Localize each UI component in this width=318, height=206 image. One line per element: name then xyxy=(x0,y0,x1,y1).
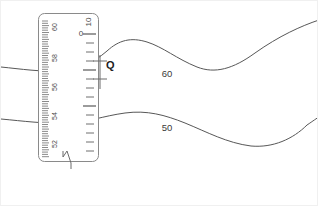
left-scale-label-3: 54 xyxy=(51,112,58,120)
left-scale-label-2: 56 xyxy=(51,83,58,91)
gauge-layer: 60 58 56 54 52 10 0 xyxy=(1,1,318,206)
left-scale-label-1: 58 xyxy=(51,54,58,62)
q-label: Q xyxy=(106,59,115,71)
figure-canvas: 60 58 56 54 52 10 0 xyxy=(0,0,318,206)
left-scale-label-4: 52 xyxy=(51,140,58,148)
curve-label-60: 60 xyxy=(162,68,173,79)
left-scale-label-0: 60 xyxy=(51,23,58,31)
curve-label-50: 50 xyxy=(162,122,173,133)
right-scale-top-label: 10 xyxy=(84,17,93,26)
right-scale-zero-label: 0 xyxy=(79,29,84,38)
